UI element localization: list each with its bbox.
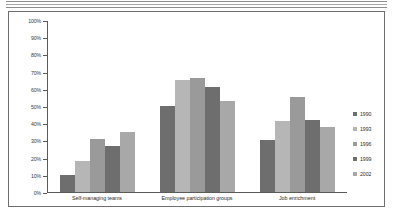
legend-swatch-icon [353,172,357,176]
legend-item-1999[interactable]: 1999 [353,151,393,166]
y-axis-tick-label: 100% [28,18,41,24]
chart-legend: 19901993199619992002 [353,106,393,181]
x-axis-line [47,192,347,193]
y-axis-tick [43,90,47,91]
legend-item-label: 2002 [360,171,371,177]
y-axis-tick [43,38,47,39]
y-axis-tick-label: 40% [31,121,41,127]
bar-groups [48,21,347,192]
bar-1990-1[interactable] [60,175,75,192]
legend-item-1990[interactable]: 1990 [353,106,393,121]
y-axis-tick [43,55,47,56]
legend-swatch-icon [353,142,357,146]
category-axis-labels: Self-managing teamsEmployee participatio… [47,195,347,201]
divider-rule-1 [6,1,387,2]
legend-item-label: 1996 [360,141,371,147]
y-axis-tick-label: 60% [31,87,41,93]
legend-swatch-icon [353,127,357,131]
bar-1990-2[interactable] [160,106,175,192]
bar-1993-2[interactable] [175,80,190,192]
y-axis-tick [43,21,47,22]
divider-rule-3 [6,7,387,8]
y-axis-tick [43,141,47,142]
chart-page: 100%90%80%70%60%50%40%30%20%10%0% Self-m… [0,0,393,216]
category-label: Employee participation groups [147,195,247,201]
bar-1996-1[interactable] [90,139,105,192]
legend-item-1993[interactable]: 1993 [353,121,393,136]
category-label: Job enrichment [247,195,347,201]
bar-2002-3[interactable] [320,127,335,192]
y-axis-tick-label: 50% [31,104,41,110]
legend-swatch-icon [353,157,357,161]
y-axis-tick [43,107,47,108]
y-axis-tick [43,176,47,177]
y-axis-tick-label: 70% [31,70,41,76]
bar-1993-3[interactable] [275,121,290,192]
bar-1990-3[interactable] [260,140,275,192]
plot-area: 100%90%80%70%60%50%40%30%20%10%0% [47,21,347,193]
y-axis-tick [43,159,47,160]
bar-1993-1[interactable] [75,161,90,192]
bar-1996-3[interactable] [290,97,305,192]
bar-group [247,21,347,192]
bar-1996-2[interactable] [190,78,205,192]
y-axis-tick-label: 90% [31,35,41,41]
bar-group [148,21,248,192]
category-label: Self-managing teams [47,195,147,201]
bar-1999-2[interactable] [205,87,220,192]
legend-item-label: 1993 [360,126,371,132]
legend-item-label: 1990 [360,111,371,117]
bar-group [48,21,148,192]
legend-swatch-icon [353,112,357,116]
y-axis-tick-label: 20% [31,156,41,162]
y-axis-tick-label: 80% [31,52,41,58]
legend-item-label: 1999 [360,156,371,162]
y-axis-tick-label: 10% [31,173,41,179]
bar-2002-1[interactable] [120,132,135,192]
divider-rule-2 [6,4,387,5]
y-axis-tick [43,193,47,194]
y-axis-tick [43,73,47,74]
y-axis-tick-label: 0% [34,190,41,196]
y-axis-tick [43,124,47,125]
legend-item-1996[interactable]: 1996 [353,136,393,151]
top-divider-rules [6,0,387,9]
bar-2002-2[interactable] [220,101,235,192]
bar-1999-3[interactable] [305,120,320,192]
y-axis-tick-label: 30% [31,138,41,144]
legend-item-2002[interactable]: 2002 [353,166,393,181]
chart-frame: 100%90%80%70%60%50%40%30%20%10%0% Self-m… [8,11,385,207]
bar-1999-1[interactable] [105,146,120,192]
